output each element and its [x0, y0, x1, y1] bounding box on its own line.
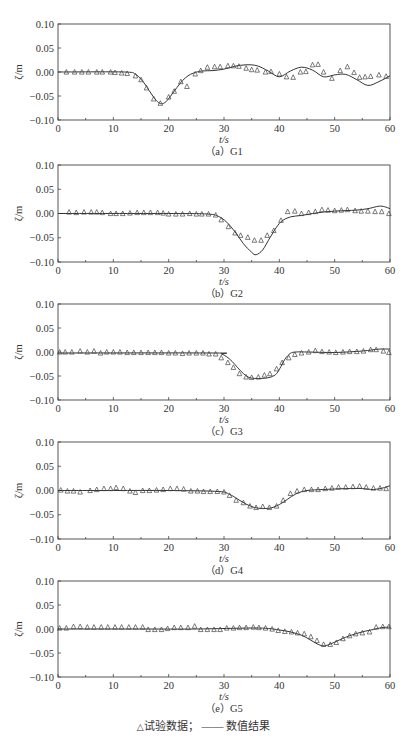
experiment-data-triangle-icon: [274, 366, 279, 371]
chart-caption: （a）G1: [205, 146, 243, 157]
experiment-data-triangle-icon: [244, 625, 249, 630]
experiment-data-triangle-icon: [387, 211, 392, 216]
x-tick-label: 40: [274, 403, 285, 414]
chart-G3: 0.100.050.00−0.05−0.100102030405060t/s（c…: [13, 299, 395, 438]
y-axis-label: ζ/m: [13, 483, 25, 498]
experiment-data-triangle-icon: [85, 625, 90, 630]
experiment-data-triangle-icon: [321, 70, 326, 75]
experiment-data-triangle-icon: [238, 233, 243, 238]
experiment-data-triangle-icon: [231, 63, 236, 68]
x-tick-label: 10: [108, 123, 119, 134]
experiment-data-triangle-icon: [255, 68, 260, 73]
experiment-data-triangle-icon: [267, 505, 272, 510]
experiment-data-triangle-icon: [128, 211, 133, 216]
experiment-data-triangle-icon: [185, 84, 190, 89]
experiment-data-triangle-icon: [198, 68, 203, 73]
experiment-data-triangle-icon: [357, 75, 362, 80]
numerical-result-line: [58, 65, 390, 104]
experiment-data-triangle-icon: [345, 207, 350, 212]
x-tick-label: 20: [163, 403, 174, 414]
experiment-data-triangle-icon: [146, 350, 151, 355]
x-tick-label: 40: [274, 542, 285, 553]
experiment-data-triangle-icon: [379, 209, 384, 214]
experiment-data-triangle-icon: [373, 209, 378, 214]
y-tick-label: 0.00: [36, 624, 54, 635]
experiment-data-triangle-icon: [114, 485, 119, 490]
experiment-data-triangle-icon: [387, 350, 392, 355]
y-tick-label: −0.10: [30, 395, 54, 406]
y-axis-label: ζ/m: [13, 64, 25, 79]
x-tick-label: 0: [55, 123, 60, 134]
experiment-data-triangle-icon: [257, 625, 262, 630]
y-tick-label: 0.05: [36, 184, 54, 195]
experiment-data-triangle-icon: [310, 62, 315, 67]
experiment-data-triangle-icon: [231, 365, 236, 370]
experiment-data-triangle-icon: [245, 235, 250, 240]
experiment-data-triangle-icon: [237, 625, 242, 630]
x-tick-label: 30: [219, 123, 230, 134]
experiment-data-triangle-icon: [309, 634, 314, 639]
experiment-data-triangle-icon: [108, 486, 113, 491]
y-tick-label: −0.05: [30, 371, 54, 382]
chart-caption: （e）G5: [205, 703, 243, 714]
y-tick-label: 0.05: [36, 323, 54, 334]
x-tick-label: 30: [219, 680, 230, 691]
chart-caption: （c）G3: [205, 426, 243, 437]
experiment-data-triangle-icon: [315, 638, 320, 643]
experiment-data-triangle-icon: [381, 624, 386, 629]
experiment-data-triangle-icon: [106, 625, 111, 630]
experiment-data-triangle-icon: [293, 209, 298, 214]
x-tick-label: 30: [219, 542, 230, 553]
experiment-data-triangle-icon: [165, 626, 170, 631]
x-axis-label: t/s: [219, 134, 229, 145]
x-axis-label: t/s: [219, 553, 229, 564]
experiment-data-triangle-icon: [213, 351, 218, 356]
chart-G5: 0.100.050.00−0.05−0.100102030405060t/s（e…: [13, 576, 395, 715]
experiment-data-triangle-icon: [207, 351, 212, 356]
experiment-data-triangle-icon: [291, 75, 296, 80]
y-tick-label: 0.10: [36, 160, 54, 171]
experiment-data-triangle-icon: [316, 62, 321, 67]
x-tick-label: 10: [108, 265, 119, 276]
experiment-data-triangle-icon: [125, 350, 130, 355]
x-tick-label: 50: [329, 123, 340, 134]
y-axis-label: ζ/m: [13, 206, 25, 221]
experiment-data-triangle-icon: [159, 350, 164, 355]
experiment-data-triangle-icon: [320, 349, 325, 354]
experiment-data-triangle-icon: [338, 68, 343, 73]
x-tick-label: 30: [219, 403, 230, 414]
experiment-data-triangle-icon: [127, 625, 132, 630]
experiment-data-triangle-icon: [212, 64, 217, 69]
x-tick-label: 20: [163, 265, 174, 276]
y-tick-label: 0.00: [36, 67, 54, 78]
experiment-data-triangle-icon: [357, 484, 362, 489]
experiment-data-triangle-icon: [102, 486, 107, 491]
experiment-data-triangle-icon: [168, 486, 173, 491]
y-tick-label: 0.10: [36, 437, 54, 448]
x-tick-label: 20: [163, 542, 174, 553]
y-tick-label: 0.00: [36, 208, 54, 219]
experiment-data-triangle-icon: [219, 217, 224, 222]
x-tick-label: 10: [108, 542, 119, 553]
experiment-data-triangle-icon: [113, 625, 118, 630]
y-axis-label: ζ/m: [13, 344, 25, 359]
y-tick-label: −0.05: [30, 509, 54, 520]
y-tick-label: −0.10: [30, 257, 54, 268]
experiment-data-triangle-icon: [320, 207, 325, 212]
y-tick-label: −0.05: [30, 91, 54, 102]
experiment-data-triangle-icon: [212, 627, 217, 632]
x-tick-label: 20: [163, 123, 174, 134]
experiment-data-triangle-icon: [92, 349, 97, 354]
numerical-result-line: [58, 206, 390, 255]
experiment-data-triangle-icon: [249, 67, 254, 72]
x-tick-label: 0: [55, 542, 60, 553]
x-tick-label: 10: [108, 680, 119, 691]
y-tick-label: −0.05: [30, 232, 54, 243]
experiment-data-triangle-icon: [285, 209, 290, 214]
x-tick-label: 0: [55, 265, 60, 276]
experiment-data-triangle-icon: [161, 211, 166, 216]
y-tick-label: 0.10: [36, 19, 54, 30]
experiment-data-triangle-icon: [153, 350, 158, 355]
x-tick-label: 50: [329, 265, 340, 276]
x-axis-label: t/s: [219, 414, 229, 425]
